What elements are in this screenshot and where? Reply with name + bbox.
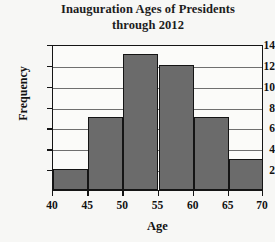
x-tick-label-50: 50 — [107, 200, 137, 211]
x-tick-label-70: 70 — [247, 200, 275, 211]
x-tick-mark-65 — [228, 191, 229, 196]
x-tick-label-55: 55 — [143, 200, 173, 211]
bar-50-55 — [123, 54, 158, 190]
bar-55-60 — [159, 65, 194, 190]
chart-title-line-1: Inauguration Ages of Presidents — [28, 1, 268, 17]
x-tick-mark-45 — [87, 191, 88, 196]
x-tick-label-40: 40 — [37, 200, 67, 211]
histogram-figure: Inauguration Ages of Presidents through … — [0, 0, 275, 242]
chart-title: Inauguration Ages of Presidents through … — [28, 1, 268, 33]
x-tick-mark-50 — [122, 191, 123, 196]
y-axis-label: Frequency — [16, 54, 31, 134]
x-tick-mark-55 — [158, 191, 159, 196]
x-tick-mark-70 — [262, 191, 263, 196]
chart-title-line-2: through 2012 — [28, 17, 268, 33]
x-tick-label-65: 65 — [213, 200, 243, 211]
bar-45-50 — [88, 117, 123, 190]
bar-40-45 — [53, 169, 88, 190]
plot-area — [52, 45, 263, 191]
x-tick-mark-60 — [193, 191, 194, 196]
x-tick-label-45: 45 — [72, 200, 102, 211]
bar-65-70 — [229, 159, 263, 190]
x-tick-mark-40 — [52, 191, 53, 196]
bar-60-65 — [194, 117, 229, 190]
x-axis-label: Age — [52, 219, 263, 234]
x-tick-label-60: 60 — [178, 200, 208, 211]
